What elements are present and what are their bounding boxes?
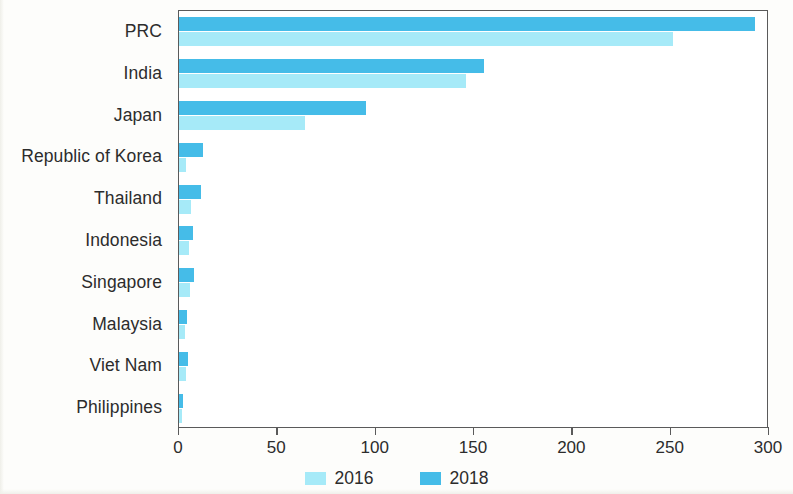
x-axis-tick-label: 250 (655, 438, 683, 458)
bar-group (179, 53, 767, 95)
x-axis-tick-label: 100 (360, 438, 388, 458)
bar-2016 (179, 241, 189, 255)
category-label: Republic of Korea (21, 146, 162, 167)
bar-group (179, 220, 767, 262)
category-label: Japan (114, 104, 162, 125)
bar-chart: PRCIndiaJapanRepublic of KoreaThailandIn… (0, 0, 793, 494)
category-axis-labels: PRCIndiaJapanRepublic of KoreaThailandIn… (0, 10, 170, 428)
bar-2016 (179, 325, 185, 339)
x-axis-tick (276, 427, 277, 435)
bar-2018 (179, 59, 484, 73)
category-label: PRC (125, 20, 162, 41)
bar-group (179, 345, 767, 387)
category-label: Viet Nam (90, 355, 162, 376)
bar-2016 (179, 409, 182, 423)
bar-2018 (179, 101, 366, 115)
x-axis: 050100150200250300 (178, 427, 768, 428)
bar-group (179, 387, 767, 429)
scan-edge-bottom (0, 489, 793, 494)
bar-2018 (179, 185, 201, 199)
x-axis-tick-label: 200 (557, 438, 585, 458)
legend-label: 2018 (450, 468, 489, 489)
bar-2018 (179, 17, 755, 31)
x-axis-tick (571, 427, 572, 435)
x-axis-tick (473, 427, 474, 435)
category-label: Philippines (76, 397, 162, 418)
bar-group (179, 304, 767, 346)
bar-group (179, 11, 767, 53)
category-label: Singapore (81, 271, 162, 292)
x-axis-tick (178, 427, 179, 435)
bar-2016 (179, 116, 305, 130)
bar-2016 (179, 283, 190, 297)
bar-2016 (179, 200, 191, 214)
category-label: Malaysia (92, 313, 162, 334)
bar-2016 (179, 74, 466, 88)
plot-area (178, 10, 768, 428)
bar-2016 (179, 158, 186, 172)
bars-container (179, 11, 767, 427)
bar-2016 (179, 367, 186, 381)
bar-2018 (179, 310, 187, 324)
bar-group (179, 95, 767, 137)
legend-label: 2016 (335, 468, 374, 489)
legend-swatch-icon (305, 472, 326, 485)
bar-2018 (179, 394, 183, 408)
bar-2018 (179, 352, 188, 366)
x-axis-tick-label: 300 (754, 438, 782, 458)
x-axis-tick (375, 427, 376, 435)
bar-group (179, 262, 767, 304)
bar-2018 (179, 268, 194, 282)
x-axis-tick (768, 427, 769, 435)
x-axis-tick-label: 150 (459, 438, 487, 458)
legend-item[interactable]: 2018 (420, 468, 489, 489)
bar-2016 (179, 32, 673, 46)
legend-swatch-icon (420, 472, 441, 485)
bar-2018 (179, 226, 193, 240)
chart-legend: 20162018 (0, 468, 793, 489)
x-axis-tick-label: 0 (173, 438, 182, 458)
x-axis-tick-label: 50 (267, 438, 286, 458)
legend-item[interactable]: 2016 (305, 468, 374, 489)
category-label: India (124, 62, 162, 83)
x-axis-tick (670, 427, 671, 435)
category-label: Indonesia (85, 229, 162, 250)
bar-group (179, 136, 767, 178)
bar-group (179, 178, 767, 220)
bar-2018 (179, 143, 203, 157)
category-label: Thailand (94, 188, 162, 209)
